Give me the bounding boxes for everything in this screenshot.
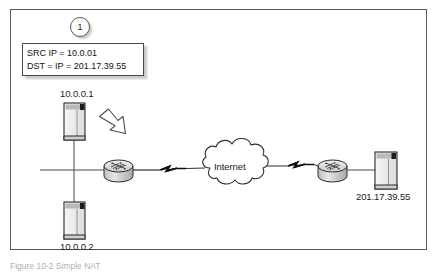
figure-caption: Figure 10-2 Simple NAT [10,261,101,272]
block-arrow-icon [100,109,126,134]
host-bottom-label: 10.0.0.2 [60,241,94,252]
cloud-label: Internet [214,161,245,172]
lightning-link-icon-left [160,166,186,172]
diagram-canvas [0,0,439,272]
step-1-badge: 1 [70,17,90,37]
wan-right-to-router-link [314,165,318,167]
lightning-link-icon-right [288,162,314,168]
packet-header-callout: SRC IP = 10.0.01 DST = IP = 201.17.39.55 [22,43,144,76]
callout-dst-line: DST = IP = 201.17.39.55 [27,60,143,73]
callout-src-line: SRC IP = 10.0.01 [27,47,143,60]
server-icon-right [375,152,397,189]
wan-left-to-cloud-link [186,168,205,169]
computer-icon-host-top [64,103,85,140]
router-icon-right [318,160,347,182]
host-top-label: 10.0.0.1 [60,88,94,99]
router-icon-left [104,160,133,182]
server-right-label: 201.17.39.55 [356,191,410,202]
figure-root: 1 SRC IP = 10.0.01 DST = IP = 201.17.39.… [0,0,439,272]
step-1-badge-label: 1 [77,23,82,32]
computer-icon-host-bottom [64,202,85,239]
